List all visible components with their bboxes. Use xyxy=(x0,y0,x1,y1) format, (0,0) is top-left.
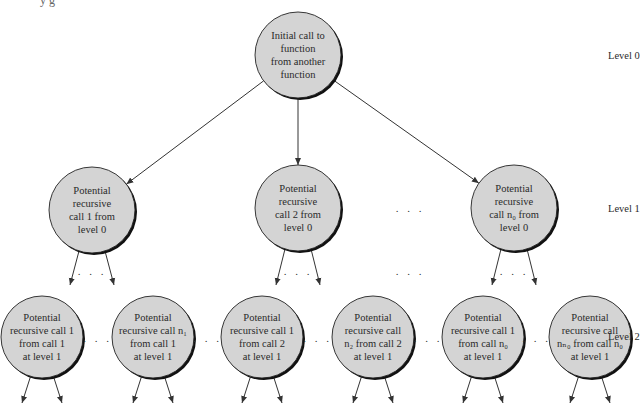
node-level1-2-label-line-1: Potential xyxy=(279,183,316,194)
node-level2-6-label-line-1: Potential xyxy=(571,312,608,323)
node-level2-3-label-line-2: recursive call 1 xyxy=(230,325,294,336)
node-level1-1: Potentialrecursivecall 1 fromlevel 0 xyxy=(49,167,137,255)
node-level2-1-label-line-2: recursive call 1 xyxy=(10,325,74,336)
node-level2-2-label-line-2: recursive call n₁ xyxy=(119,325,187,336)
node-level2-5-label-line-3: from call n₀ xyxy=(458,338,508,349)
node-level2-5-circle xyxy=(442,296,524,378)
node-level2-1-circle xyxy=(1,296,83,378)
node-root-label-line-2: function xyxy=(281,43,317,54)
edge-level2-6-left xyxy=(570,375,579,403)
edge-level2-4-left xyxy=(353,375,362,403)
edge-level2-2-right xyxy=(164,375,173,403)
node-root: Initial call tofunctionfrom anotherfunct… xyxy=(255,12,343,100)
node-level1-3-label-line-3: call n₀ from xyxy=(489,209,539,220)
node-level2-1: Potentialrecursive call 1from call 1at l… xyxy=(1,296,85,380)
edge-root-to-level1-3 xyxy=(333,80,479,183)
level-label-2: Level 2 xyxy=(608,331,640,342)
nodes-group: Initial call tofunctionfrom anotherfunct… xyxy=(1,12,633,380)
node-level2-6-label-line-4: at level 1 xyxy=(571,351,609,362)
node-level2-5: Potentialrecursive call 1from call n₀at … xyxy=(442,296,526,380)
ellipsis-level1: . . . xyxy=(396,202,425,214)
node-level1-3-label-line-1: Potential xyxy=(495,183,532,194)
node-level2-2-label-line-1: Potential xyxy=(134,312,171,323)
edge-level2-5-right xyxy=(494,375,503,403)
node-level1-1-label-line-2: recursive xyxy=(73,198,112,209)
edge-level2-6-right xyxy=(601,375,610,403)
edge-level2-3-left xyxy=(242,375,251,403)
edge-level2-1-left xyxy=(22,375,31,403)
ellipsis-below-level1-2: . . . xyxy=(284,265,313,277)
edge-level2-5-left xyxy=(463,375,472,403)
node-level2-4-label-line-1: Potential xyxy=(354,312,391,323)
ellipsis-level2-2: . . . xyxy=(193,332,222,344)
node-level2-5-label-line-1: Potential xyxy=(464,312,501,323)
node-level1-2-label-line-4: level 0 xyxy=(284,222,312,233)
node-level1-2-label-line-2: recursive xyxy=(279,196,318,207)
node-level2-1-label-line-1: Potential xyxy=(23,312,60,323)
node-level2-1-label-line-3: from call 1 xyxy=(19,338,65,349)
node-level2-2-label-line-4: at level 1 xyxy=(134,351,172,362)
node-level2-4-circle xyxy=(332,296,414,378)
node-level2-3: Potentialrecursive call 1from call 2at l… xyxy=(221,296,305,380)
node-root-circle xyxy=(255,12,341,98)
level-label-0: Level 0 xyxy=(608,50,640,61)
ellipsis-level2-3: . . . xyxy=(303,332,332,344)
ellipsis-level2-4: . . . xyxy=(414,332,443,344)
node-root-label-line-1: Initial call to xyxy=(271,30,325,41)
ellipsis-level2-1: . . . xyxy=(83,332,112,344)
edge-root-to-level1-1 xyxy=(126,81,263,184)
node-level1-2-circle xyxy=(255,165,341,251)
node-level2-2-circle xyxy=(112,296,194,378)
recursion-tree-diagram: y g Initial call tofunctionfrom anotherf… xyxy=(0,0,642,404)
ellipsis-below-level1-1: . . . xyxy=(78,265,107,277)
edge-level2-1-right xyxy=(53,375,62,403)
node-level2-3-circle xyxy=(221,296,303,378)
node-level2-4-label-line-4: at level 1 xyxy=(354,351,392,362)
node-level1-3: Potentialrecursivecall n₀ fromlevel 0 xyxy=(471,165,559,253)
ellipsis-between-groups: . . . xyxy=(396,265,425,277)
node-level2-3-label-line-4: at level 1 xyxy=(243,351,281,362)
node-level2-4-label-line-2: recursive call xyxy=(345,325,401,336)
cut-off-header-text: y g xyxy=(40,0,55,7)
node-level1-1-label-line-3: call 1 from xyxy=(69,211,115,222)
node-level1-1-circle xyxy=(49,167,135,253)
node-level2-2-label-line-3: from call 1 xyxy=(130,338,176,349)
ellipsis-level2-5: . . . xyxy=(522,332,551,344)
node-level2-5-label-line-4: at level 1 xyxy=(464,351,502,362)
node-level1-3-label-line-4: level 0 xyxy=(500,222,528,233)
node-level1-2-label-line-3: call 2 from xyxy=(275,209,321,220)
node-level1-3-label-line-2: recursive xyxy=(495,196,534,207)
node-level2-1-label-line-4: at level 1 xyxy=(23,351,61,362)
edge-level2-2-left xyxy=(133,375,142,403)
node-level2-2: Potentialrecursive call n₁from call 1at … xyxy=(112,296,196,380)
edge-level2-3-right xyxy=(273,375,282,403)
node-level1-1-label-line-1: Potential xyxy=(73,185,110,196)
node-level2-4: Potentialrecursive calln₂ from call 2at … xyxy=(332,296,416,380)
node-root-label-line-4: function xyxy=(281,69,317,80)
edge-level2-4-right xyxy=(384,375,393,403)
node-level1-1-label-line-4: level 0 xyxy=(78,224,106,235)
node-level1-3-circle xyxy=(471,165,557,251)
node-level2-4-label-line-3: n₂ from call 2 xyxy=(344,338,402,349)
node-level1-2: Potentialrecursivecall 2 fromlevel 0 xyxy=(255,165,343,253)
level-label-1: Level 1 xyxy=(608,203,640,214)
node-level2-3-label-line-1: Potential xyxy=(243,312,280,323)
node-root-label-line-3: from another xyxy=(271,56,326,67)
node-level2-3-label-line-3: from call 2 xyxy=(239,338,285,349)
ellipsis-below-level1-3: . . . xyxy=(500,265,529,277)
node-level2-5-label-line-2: recursive call 1 xyxy=(451,325,515,336)
